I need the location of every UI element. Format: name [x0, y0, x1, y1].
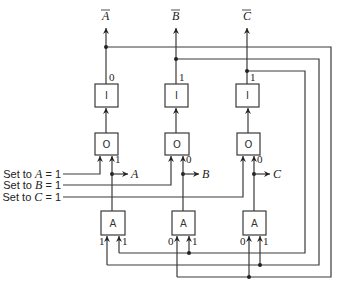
label-c-bar: C: [243, 9, 252, 23]
and-gate-a-label: A: [110, 218, 117, 229]
output-b-label: B: [202, 167, 210, 181]
or-gate-b-input-value: 0: [186, 153, 192, 165]
or-gate-c-label: O: [245, 139, 253, 150]
or-gate-a-input-value: 1: [115, 153, 121, 165]
or-gate-c-input-value: 0: [257, 153, 263, 165]
and-gate-c-right-value: 1: [263, 235, 269, 247]
svg-text:Set to C = 1: Set to C = 1: [3, 190, 61, 204]
and-gate-b-label: A: [180, 218, 187, 229]
feedback-b-bar: [107, 57, 319, 265]
set-b-suffix: = 1: [42, 179, 61, 191]
set-input-c: Set to C = 1: [3, 190, 61, 204]
and-gate-a-left-value: 1: [99, 235, 105, 247]
label-b-bar: B: [172, 9, 180, 23]
inverter-c-output-value: 1: [250, 71, 256, 83]
and-gate-c-label: A: [251, 218, 258, 229]
set-b-prefix: Set to: [3, 179, 35, 191]
set-input-b: Set to B = 1: [3, 178, 61, 192]
inverter-a-output-value: 0: [109, 71, 115, 83]
inverter-b-output-value: 1: [179, 71, 185, 83]
inverter-b-label: I: [175, 90, 178, 101]
and-gate-b-left-value: 0: [168, 235, 174, 247]
set-c-prefix: Set to: [3, 191, 35, 203]
svg-text:Set to B = 1: Set to B = 1: [3, 178, 61, 192]
and-gate-b-right-value: 1: [192, 235, 198, 247]
label-a-bar: A: [101, 9, 110, 23]
or-gate-b-label: O: [173, 139, 181, 150]
inverter-c-label: I: [246, 90, 249, 101]
circuit-diagram: A B C 0 I O 1 A A: [0, 0, 340, 286]
and-gate-a-right-value: 1: [122, 235, 128, 247]
inverter-a-label: I: [105, 90, 108, 101]
output-a-label: A: [130, 167, 139, 181]
output-c-label: C: [273, 167, 282, 181]
or-gate-a-label: O: [103, 139, 111, 150]
feedback-a-bar: [104, 45, 331, 277]
and-gate-c-left-value: 0: [240, 235, 246, 247]
feedback-c-bar: [119, 69, 305, 253]
column-a: 0 I O 1 A A 1 1: [63, 71, 139, 265]
set-c-suffix: = 1: [42, 191, 61, 203]
